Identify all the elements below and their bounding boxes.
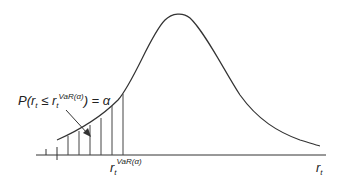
var-axis-label: rtVaR(α): [110, 157, 142, 177]
density-curve: [57, 14, 320, 146]
var-diagram: P(rt ≤ rtVaR(α)) = α rtVaR(α) rt: [0, 0, 343, 182]
probability-label: P(rt ≤ rtVaR(α)) = α: [18, 92, 111, 110]
tail-hatching: [68, 106, 112, 155]
x-axis-label: rt: [316, 160, 323, 177]
